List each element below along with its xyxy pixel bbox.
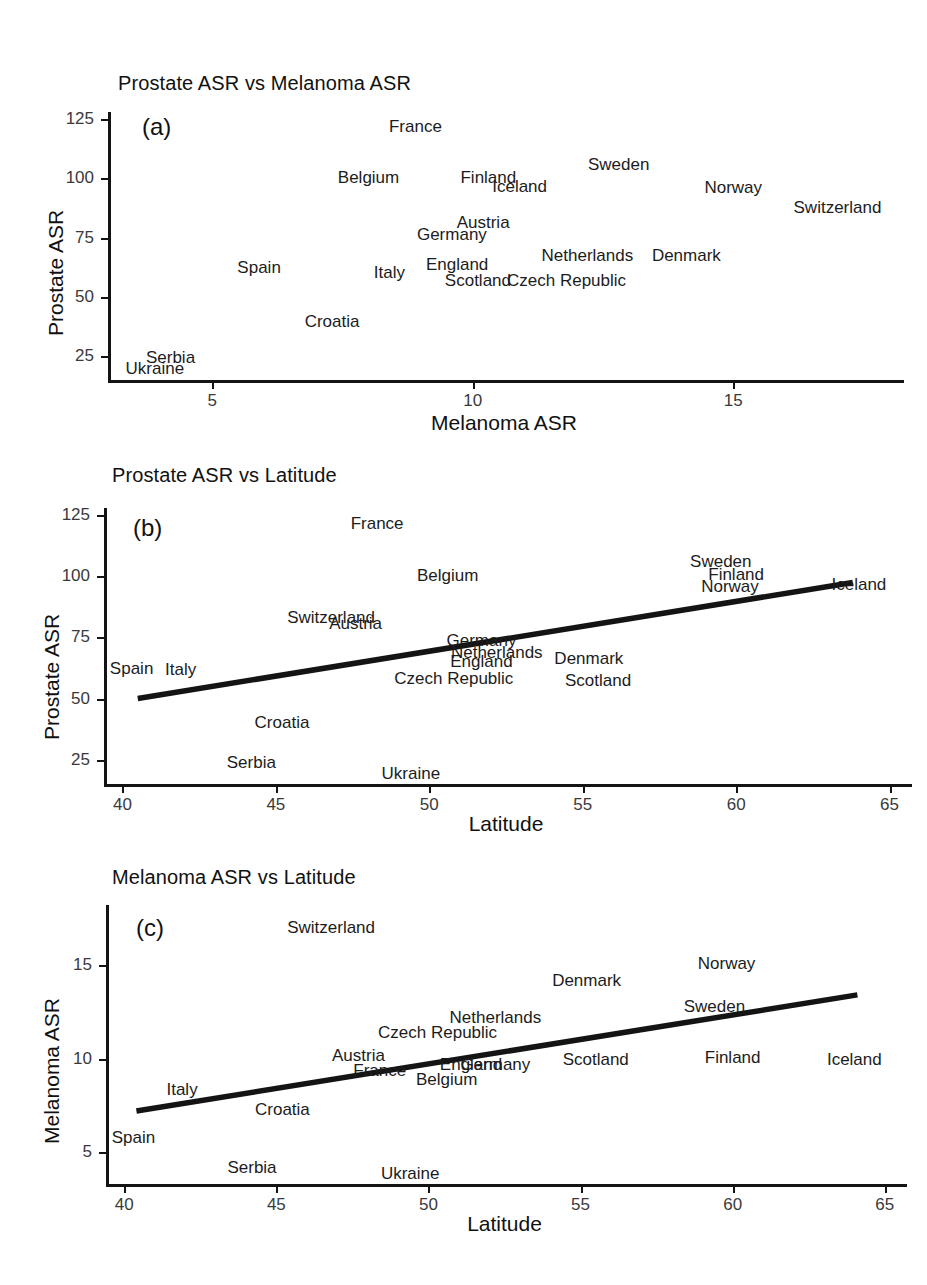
point-label: England [450,652,512,669]
point-label: France [353,1061,406,1078]
point-label: Switzerland [794,198,882,215]
y-tick [101,297,108,299]
point-label: Denmark [554,650,623,667]
point-label: Scotland [563,1050,629,1067]
panel-tag: (a) [142,113,171,141]
point-label: Sweden [684,998,745,1015]
x-tick [733,382,735,389]
point-label: Ukraine [126,360,185,377]
y-tick-label: 50 [46,689,90,709]
point-label: England [426,255,488,272]
x-tick-label: 65 [875,1195,894,1215]
x-tick-label: 50 [420,795,439,815]
y-tick [97,637,104,639]
x-tick-label: 40 [115,1195,134,1215]
point-label: Finland [460,169,516,186]
point-label: Czech Republic [394,669,513,686]
y-axis-title: Prostate ASR [40,614,64,740]
panel-title: Prostate ASR vs Latitude [112,464,337,487]
point-label: Denmark [652,247,721,264]
y-axis-title: Melanoma ASR [40,998,64,1144]
point-label: Czech Republic [507,272,626,289]
point-label: Germany [446,631,516,648]
y-tick [99,965,106,967]
y-tick-label: 125 [46,505,90,525]
point-label: Croatia [255,1101,310,1118]
x-tick [276,786,278,793]
x-tick [473,382,475,389]
point-label: Iceland [831,575,886,592]
y-tick [97,760,104,762]
y-tick-label: 25 [46,750,90,770]
point-label: Italy [165,661,196,678]
x-axis-title: Latitude [469,812,544,836]
x-axis-title: Latitude [467,1212,542,1236]
regression-line [0,0,927,1285]
y-tick-label: 75 [46,627,90,647]
x-tick-label: 50 [419,1195,438,1215]
x-tick [736,786,738,793]
point-label: Spain [110,659,153,676]
y-tick [97,699,104,701]
x-tick [428,1186,430,1193]
point-label: France [351,514,404,531]
x-tick-label: 5 [207,391,216,411]
regression-line [0,0,927,1285]
x-tick-label: 45 [267,1195,286,1215]
x-axis-title: Melanoma ASR [431,411,577,435]
x-axis-line [104,784,912,787]
y-tick [99,1059,106,1061]
point-label: Ukraine [381,1164,440,1181]
point-label: Sweden [588,156,649,173]
point-label: Serbia [227,754,276,771]
x-tick [212,382,214,389]
point-label: Belgium [338,169,399,186]
x-tick-label: 60 [727,795,746,815]
chart-panel-c: Melanoma ASR vs Latitude(c)4045505560655… [0,0,927,1285]
x-tick-label: 40 [113,795,132,815]
panel-tag: (b) [133,514,162,542]
y-tick-label: 75 [50,228,94,248]
panel-tag: (c) [136,914,164,942]
x-tick-label: 55 [573,795,592,815]
point-label: Germany [460,1056,530,1073]
x-tick-label: 60 [723,1195,742,1215]
point-label: Switzerland [287,919,375,936]
point-label: Austria [457,214,510,231]
point-label: Scotland [445,272,511,289]
x-tick [276,1186,278,1193]
panel-title: Prostate ASR vs Melanoma ASR [118,72,411,95]
point-label: Finland [708,565,764,582]
y-tick-label: 50 [50,287,94,307]
point-label: Switzerland [287,608,375,625]
chart-panel-a: Prostate ASR vs Melanoma ASR(a)510152550… [0,0,927,1285]
point-label: Sweden [690,552,751,569]
point-label: Norway [698,955,756,972]
panel-title: Melanoma ASR vs Latitude [112,866,356,889]
point-label: Netherlands [542,247,634,264]
point-label: Italy [166,1080,197,1097]
point-label: Iceland [492,177,547,194]
point-label: Norway [701,578,759,595]
point-label: Denmark [552,971,621,988]
y-axis-line [108,112,111,382]
y-tick [101,238,108,240]
x-axis-line [106,1184,907,1187]
y-axis-title: Prostate ASR [44,210,68,336]
y-tick-label: 125 [50,109,94,129]
point-label: Iceland [827,1050,882,1067]
point-label: Croatia [305,312,360,329]
y-tick-label: 15 [48,955,92,975]
x-tick-label: 45 [266,795,285,815]
y-tick [97,576,104,578]
point-label: Norway [704,178,762,195]
x-tick [583,786,585,793]
point-label: Netherlands [451,644,543,661]
x-tick-label: 10 [463,391,482,411]
point-label: Netherlands [450,1009,542,1026]
y-tick-label: 100 [50,168,94,188]
y-tick [101,356,108,358]
x-tick [733,1186,735,1193]
point-label: Ukraine [382,765,441,782]
x-tick-label: 55 [571,1195,590,1215]
